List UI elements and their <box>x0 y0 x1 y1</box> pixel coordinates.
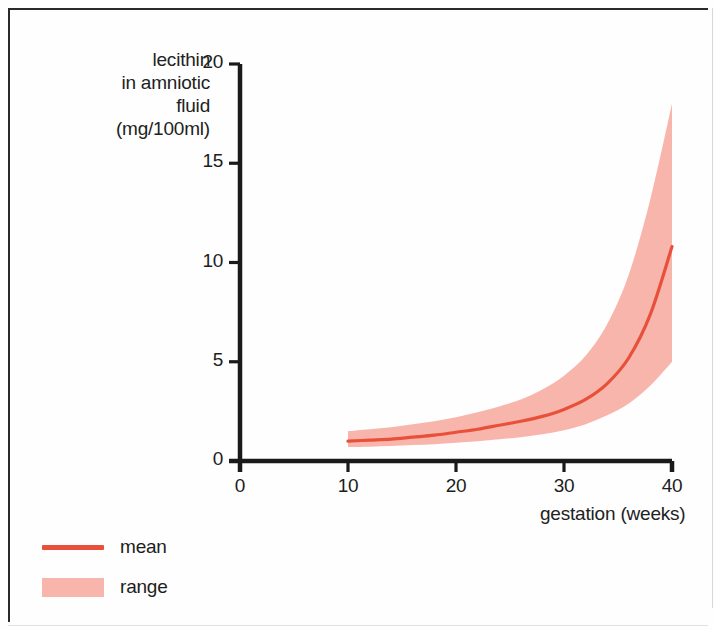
y-axis-title-line-3: fluid <box>78 94 210 117</box>
x-axis-tick-label: 10 <box>326 475 370 497</box>
y-axis-tick-label: 0 <box>181 448 223 470</box>
x-axis-tick-label: 30 <box>542 475 586 497</box>
legend-swatch-mean-line <box>42 545 104 550</box>
range-band <box>348 104 672 447</box>
legend-item-range: range <box>42 567 168 607</box>
x-axis-tick-label: 20 <box>434 475 478 497</box>
legend-label-range: range <box>120 576 168 598</box>
legend-label-mean: mean <box>120 536 167 558</box>
y-axis-tick-label: 20 <box>181 51 223 73</box>
range-band-path <box>348 104 672 447</box>
y-axis-title-line-4: (mg/100ml) <box>78 117 210 140</box>
figure-container: lecithin in amniotic fluid (mg/100ml) ge… <box>0 0 714 630</box>
y-axis-title-line-2: in amniotic <box>78 71 210 94</box>
legend-swatch-range-band <box>42 578 104 597</box>
x-axis-title: gestation (weeks) <box>540 503 686 525</box>
y-axis-tick-label: 10 <box>181 250 223 272</box>
x-axis-tick-label: 0 <box>218 475 262 497</box>
y-axis-tick-label: 5 <box>181 349 223 371</box>
y-axis-tick-label: 15 <box>181 150 223 172</box>
legend-item-mean: mean <box>42 527 168 567</box>
chart-legend: mean range <box>42 527 168 607</box>
x-axis-tick-label: 40 <box>650 475 694 497</box>
